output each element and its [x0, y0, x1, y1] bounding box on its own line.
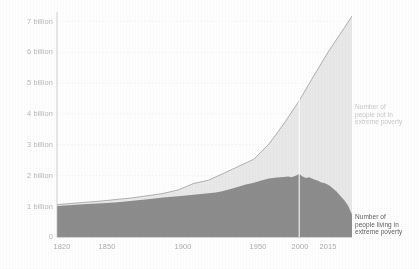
- x-tick-label-2000: 2000: [288, 243, 312, 251]
- y-tick-label-7-billion: 7 billion: [8, 18, 53, 26]
- x-tick-label-1850: 1850: [95, 243, 119, 251]
- annotation-living-in-extreme-poverty: Number of people living in extreme pover…: [355, 213, 417, 236]
- x-tick-label-2015: 2015: [316, 243, 340, 251]
- x-tick-label-1820: 1820: [50, 243, 74, 251]
- y-tick-label-4-billion: 4 billion: [8, 110, 53, 118]
- y-tick-label-2-billion: 2 billion: [8, 172, 53, 180]
- y-tick-label-5-billion: 5 billion: [8, 79, 53, 87]
- y-tick-label-6-billion: 6 billion: [8, 48, 53, 56]
- x-tick-label-1900: 1900: [171, 243, 195, 251]
- y-tick-label-1-billion: 1 billion: [8, 203, 53, 211]
- extreme-poverty-area-chart: 7 billion 6 billion 5 billion 4 billion …: [0, 0, 419, 269]
- annotation-not-in-extreme-poverty: Number of people not in extreme poverty: [355, 103, 417, 126]
- y-tick-label-3-billion: 3 billion: [8, 141, 53, 149]
- x-tick-label-1950: 1950: [246, 243, 270, 251]
- y-tick-label-zero: 0: [8, 233, 53, 241]
